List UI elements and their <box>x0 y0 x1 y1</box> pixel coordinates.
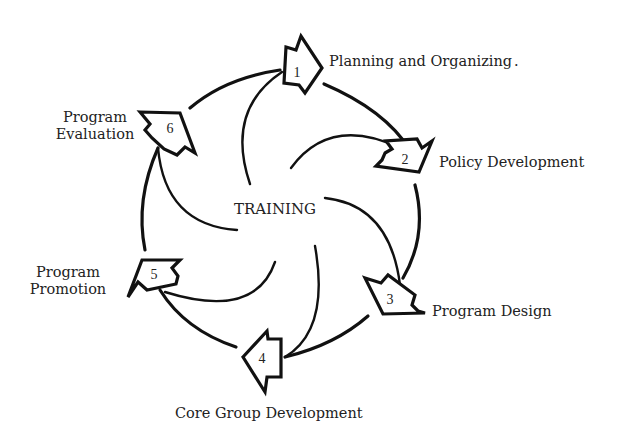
arc-3-to-4 <box>285 316 368 357</box>
step-3-number: 3 <box>387 292 394 307</box>
arc-6-to-1 <box>190 70 280 108</box>
step-4-label: Core Group Development <box>175 405 363 421</box>
step-1-arrow-shape <box>284 36 322 93</box>
spoke-5 <box>165 262 275 301</box>
training-cycle-diagram: 1 2 3 4 5 6 TRAINING Planning and Organi… <box>0 0 617 433</box>
spoke-4 <box>285 246 319 357</box>
step-2-label: Policy Development <box>439 154 584 170</box>
spoke-1 <box>242 72 282 184</box>
step-4-number: 4 <box>259 351 266 366</box>
step-1-number: 1 <box>294 65 301 80</box>
step-6-label-line-1: Program <box>63 109 127 125</box>
spoke-6 <box>158 148 237 230</box>
step-3-label: Program Design <box>432 303 552 319</box>
step-labels: Planning and Organizing. Policy Developm… <box>30 53 585 421</box>
step-5-label-line-1: Program <box>36 264 100 280</box>
step-6-number: 6 <box>167 121 174 136</box>
arc-5-to-6 <box>142 148 158 250</box>
step-3-arrow-shape <box>365 275 425 314</box>
step-2-number: 2 <box>402 152 409 167</box>
step-6-label-line-2: Evaluation <box>56 126 135 142</box>
arc-2-to-3 <box>403 185 419 278</box>
spoke-3 <box>325 198 400 285</box>
step-5-number: 5 <box>151 267 158 282</box>
center-label: TRAINING <box>234 200 316 218</box>
step-5-label-line-2: Promotion <box>30 281 106 297</box>
step-1-label: Planning and Organizing. <box>329 53 519 69</box>
